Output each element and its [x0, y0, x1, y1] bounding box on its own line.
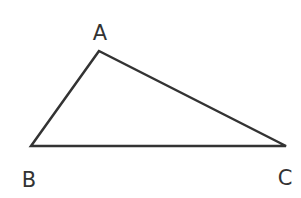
triangle-diagram: A B C [0, 0, 301, 198]
triangle-abc [31, 51, 286, 146]
vertex-label-c: C [278, 166, 293, 190]
vertex-label-a: A [93, 21, 108, 45]
vertex-label-b: B [22, 168, 36, 192]
